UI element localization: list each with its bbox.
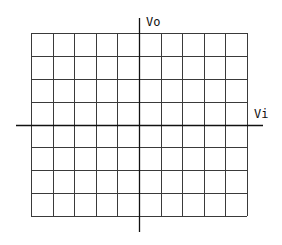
vi-axis-label: Vi [254, 107, 268, 121]
graticule-diagram: Vo Vi [0, 0, 282, 245]
vo-axis-label: Vo [146, 15, 160, 29]
